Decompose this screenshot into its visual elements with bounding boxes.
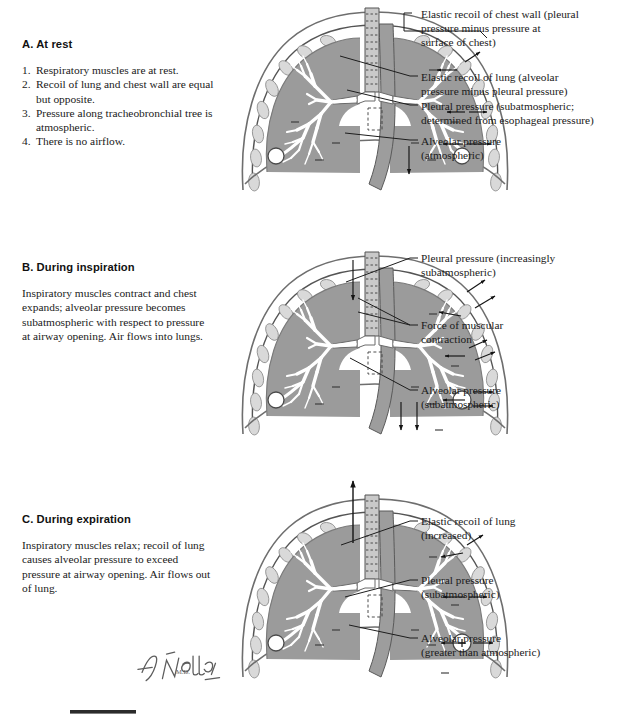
list-text: Pressure along tracheobronchial tree is … (36, 107, 213, 133)
callout-alveolar-pressure: Alveolar pressure (atmospheric) (421, 134, 621, 162)
list-number: 2. (22, 77, 31, 91)
callout-line-2: determined from esophageal pressure) (421, 113, 624, 127)
plate-page: M.D. A. At rest 1. Respiratory muscles a… (0, 0, 624, 719)
callout-force-of-muscular-contraction: Force of muscular contraction (421, 318, 621, 346)
panel-c-paragraph: Inspiratory muscles relax; recoil of lun… (22, 538, 218, 595)
callout-alveolar-pressure-sub: Alveolar pressure (subatmospheric) (421, 383, 621, 411)
list-number: 1. (22, 63, 31, 77)
callout-line-2: (increased) (421, 528, 621, 542)
list-text: There is no airflow. (36, 135, 125, 147)
callout-pleural-pressure-sub: Pleural pressure (subatmospheric) (421, 573, 621, 601)
callout-line-1: Elastic recoil of lung (421, 514, 621, 528)
callout-elastic-recoil-lung: Elastic recoil of lung (alveolar pressur… (421, 70, 621, 98)
panel-a-body: 1. Respiratory muscles are at rest. 2. R… (22, 63, 218, 149)
callout-line-1: Elastic recoil of lung (alveolar (421, 70, 621, 84)
callout-line-2: (subatmospheric) (421, 587, 621, 601)
callout-line-1: Pleural pressure (increasingly (421, 251, 621, 265)
panel-a-list: 1. Respiratory muscles are at rest. 2. R… (22, 63, 218, 149)
panel-b-heading: B. During inspiration (22, 261, 135, 273)
list-number: 3. (22, 106, 31, 120)
callout-line-2: (subatmospheric) (421, 397, 621, 411)
callout-line-2: (atmospheric) (421, 148, 621, 162)
list-number: 4. (22, 134, 31, 148)
list-item: 2. Recoil of lung and chest wall are equ… (22, 77, 218, 106)
signature-suffix: M.D. (176, 668, 190, 675)
callout-line-2: subatmospheric) (421, 265, 621, 279)
callout-line-2: contraction (421, 332, 621, 346)
callout-line-2: pressure minus pleural pressure) (421, 84, 621, 98)
callout-line-1: Pleural pressure (421, 573, 621, 587)
list-text: Respiratory muscles are at rest. (36, 64, 179, 76)
panel-b-paragraph: Inspiratory muscles contract and chest e… (22, 286, 208, 343)
callout-line-2: pressure minus pressure at (421, 21, 621, 35)
callout-line-1: Alveolar pressure (421, 383, 621, 397)
callout-line-1: Alveolar pressure (421, 631, 624, 645)
callout-line-1: Force of muscular (421, 318, 621, 332)
artist-signature (138, 652, 220, 681)
list-item: 4. There is no airflow. (22, 134, 218, 148)
callout-elastic-recoil-lung-increased: Elastic recoil of lung (increased) (421, 514, 621, 542)
list-item: 3. Pressure along tracheobronchial tree … (22, 106, 218, 135)
callout-pleural-pressure: Pleural pressure (subatmospheric; determ… (421, 99, 624, 127)
callout-line-1: Elastic recoil of chest wall (pleural (421, 7, 621, 21)
list-item: 1. Respiratory muscles are at rest. (22, 63, 218, 77)
panel-a-heading: A. At rest (22, 38, 72, 50)
panel-c-heading: C. During expiration (22, 513, 131, 525)
callout-line-3: surface of chest) (421, 35, 621, 49)
panel-c-body: Inspiratory muscles relax; recoil of lun… (22, 538, 218, 595)
callout-pleural-pressure-increasingly-sub: Pleural pressure (increasingly subatmosp… (421, 251, 621, 279)
list-text: Recoil of lung and chest wall are equal … (36, 78, 213, 104)
footer-rule (70, 710, 136, 714)
callout-line-1: Alveolar pressure (421, 134, 621, 148)
callout-alveolar-pressure-greater: Alveolar pressure (greater than atmosphe… (421, 631, 624, 659)
callout-line-1: Pleural pressure (subatmospheric; (421, 99, 624, 113)
callout-elastic-recoil-chest-wall: Elastic recoil of chest wall (pleural pr… (421, 7, 621, 50)
callout-line-2: (greater than atmospheric) (421, 645, 624, 659)
panel-b-body: Inspiratory muscles contract and chest e… (22, 286, 208, 343)
